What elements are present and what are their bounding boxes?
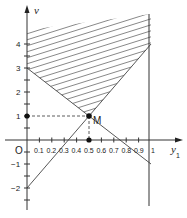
y-tick-label: −2 (11, 184, 21, 193)
y-tick-label: 1 (16, 112, 21, 121)
x-axis: 0.1 0.2 0.3 0.4 0.5 0.6 0.7 0.8 0.9 1 O … (5, 138, 183, 160)
point-M-label: M (93, 115, 101, 126)
y-tick-label: 4 (16, 40, 21, 49)
x-tick-label: 0.6 (97, 147, 107, 154)
x-tick-label: 0.1 (34, 147, 44, 154)
x-tick-label: 0.5 (84, 147, 94, 154)
x-axis-arrow-icon (175, 138, 183, 143)
y-axis-arrow-icon (25, 5, 30, 13)
x-tick-label: 0.8 (122, 147, 132, 154)
point-v-1 (24, 113, 29, 118)
x-axis-label-subscript: 1 (176, 152, 180, 159)
y-tick-label: 2 (16, 88, 21, 97)
y-tick-label: −1 (11, 160, 21, 169)
x-tick-label: 0.9 (134, 147, 144, 154)
y-tick-label: 3 (16, 64, 21, 73)
x-tick-label: 0.4 (72, 147, 82, 154)
x-tick-label: 0.7 (109, 147, 119, 154)
point-M (86, 113, 92, 119)
x-tick-label: 1 (151, 147, 155, 154)
point-x-0-5 (86, 137, 91, 142)
diagram-canvas: 4 3 2 1 −1 −2 v 0.1 0.2 0.3 0.4 0.5 0.6 … (0, 0, 187, 218)
x-tick-label: 0.2 (47, 147, 57, 154)
y-axis-label: v (34, 4, 39, 16)
origin-label: O (15, 145, 23, 156)
x-tick-label: 0.3 (59, 147, 69, 154)
